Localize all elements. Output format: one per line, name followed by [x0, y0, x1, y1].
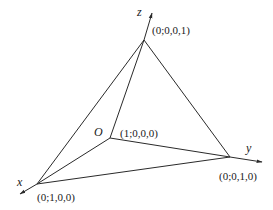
x-axis-arrow — [20, 184, 37, 194]
z-axis-label: z — [136, 5, 142, 19]
y-axis-arrow — [230, 157, 262, 162]
vertex-label-x: (0;1,0,0) — [37, 191, 75, 204]
edge-origin-y — [110, 138, 230, 157]
edge-y-z — [144, 40, 230, 157]
edge-x-y — [37, 157, 230, 184]
edge-origin-x — [37, 138, 110, 184]
edge-origin-z — [110, 40, 144, 138]
origin-label: O — [94, 125, 103, 139]
vertex-label-origin: (1;0,0,0) — [120, 127, 158, 140]
tetrahedron-diagram: z x y O (0;0,0,1) (1;0,0,0) (0;1,0,0) (0… — [0, 0, 273, 210]
z-axis-arrow — [144, 13, 152, 40]
vertex-label-y: (0;0,1,0) — [219, 170, 257, 183]
edge-x-z — [37, 40, 144, 184]
vertex-label-z: (0;0,0,1) — [152, 24, 190, 37]
x-axis-label: x — [16, 175, 23, 189]
y-axis-label: y — [245, 141, 252, 155]
